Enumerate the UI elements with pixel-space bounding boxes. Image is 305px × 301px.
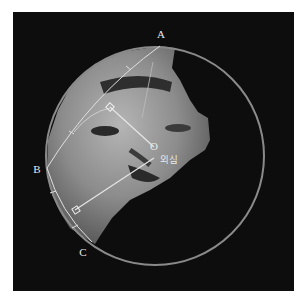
roof-tile-fragment bbox=[47, 46, 210, 244]
label-o: O bbox=[150, 140, 158, 152]
label-circumcenter: 외심 bbox=[160, 154, 178, 165]
right-eye bbox=[165, 124, 191, 132]
label-a: A bbox=[157, 28, 165, 40]
label-b: B bbox=[33, 163, 40, 175]
label-c: C bbox=[79, 246, 86, 258]
diagram: A B C O 외심 bbox=[0, 0, 305, 301]
left-eye bbox=[91, 126, 119, 136]
